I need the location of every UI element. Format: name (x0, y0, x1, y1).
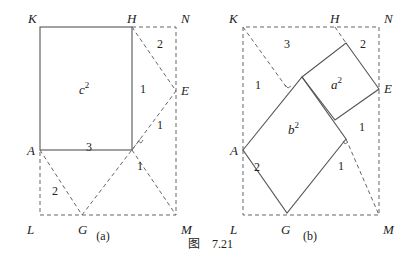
point-A: A (229, 143, 238, 158)
region-label: 2 (254, 160, 260, 174)
square-b-label: b2 (288, 120, 299, 137)
figure-caption-number: 7.21 (212, 237, 233, 251)
panel-a-label: (a) (96, 229, 109, 243)
panel-b-label: (b) (303, 229, 317, 243)
region-label: 3 (284, 37, 290, 51)
point-M: M (180, 222, 193, 237)
point-M: M (382, 222, 395, 237)
point-H: H (126, 11, 137, 26)
point-E: E (383, 81, 392, 96)
pythagorean-proof-diagram: K H N E A L G M c2 2 1 1 3 2 1 (a) K H N… (0, 0, 420, 256)
region-label: 2 (52, 184, 58, 198)
segment-AG (40, 150, 82, 215)
point-H: H (329, 11, 340, 26)
segment-HE (132, 27, 176, 91)
point-N: N (180, 11, 191, 26)
region-label: 1 (359, 120, 365, 134)
point-E: E (180, 83, 189, 98)
region-label: 1 (338, 159, 344, 173)
segment-H-corner (335, 27, 346, 43)
panel-b: K H N E A L G M a2 b2 3 2 1 1 2 1 (b) (228, 11, 395, 243)
region-label: 1 (157, 118, 163, 132)
panel-a: K H N E A L G M c2 2 1 1 3 2 1 (a) (26, 11, 193, 243)
segment-corner-M (346, 139, 379, 215)
outer-dashed-boundary-a (40, 27, 176, 215)
square-b (243, 77, 346, 213)
region-label: 2 (157, 37, 163, 51)
figure-caption-prefix: 图 (188, 237, 200, 251)
point-K: K (228, 11, 239, 26)
point-G: G (281, 222, 291, 237)
region-label: 3 (86, 140, 92, 154)
square-c-label: c2 (79, 80, 89, 97)
point-G: G (78, 222, 88, 237)
region-label: 1 (255, 78, 261, 92)
region-label: 1 (140, 82, 146, 96)
point-L: L (229, 222, 237, 237)
point-A: A (26, 143, 35, 158)
region-label: 1 (137, 159, 143, 173)
region-label: 2 (360, 37, 366, 51)
point-N: N (383, 11, 394, 26)
square-a-label: a2 (331, 75, 342, 92)
segment-K-foot (243, 27, 287, 88)
point-L: L (26, 222, 34, 237)
point-K: K (27, 11, 38, 26)
